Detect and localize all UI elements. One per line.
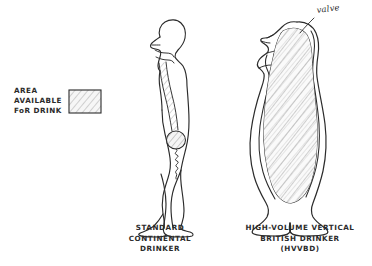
hvvbd-throat-line xyxy=(259,65,271,68)
figure-standard-continental-drinker xyxy=(139,20,193,237)
caption-left-line2: CONTINENTAL xyxy=(113,234,207,245)
legend-swatch-group xyxy=(69,90,101,113)
standard-intestine xyxy=(175,149,178,179)
legend-label-line3: FoR DRINK xyxy=(14,106,68,116)
caption-right-line3: (HVVBD) xyxy=(228,244,372,255)
caption-right-line2: BRITISH DRINKER xyxy=(228,234,372,245)
diagram-canvas: AREA AVAILABLE FoR DRINK STANDARD CONTIN… xyxy=(0,0,372,266)
valve-leader-line xyxy=(300,18,314,33)
legend-label-line2: AVAILABLE xyxy=(14,96,68,106)
legend-swatch-hatching xyxy=(69,90,101,113)
caption-hvvbd: HIGH-VOLUME VERTICAL BRITISH DRINKER (HV… xyxy=(228,223,372,255)
caption-left-line3: DRINKER xyxy=(113,244,207,255)
caption-left-line1: STANDARD xyxy=(113,223,207,234)
standard-oral-cavity xyxy=(155,50,174,57)
legend-label: AREA AVAILABLE FoR DRINK xyxy=(14,86,68,115)
hvvbd-nose-line xyxy=(267,35,273,38)
caption-standard-continental-drinker: STANDARD CONTINENTAL DRINKER xyxy=(113,223,207,255)
legend-label-line1: AREA xyxy=(14,86,68,96)
caption-right-line1: HIGH-VOLUME VERTICAL xyxy=(228,223,372,234)
